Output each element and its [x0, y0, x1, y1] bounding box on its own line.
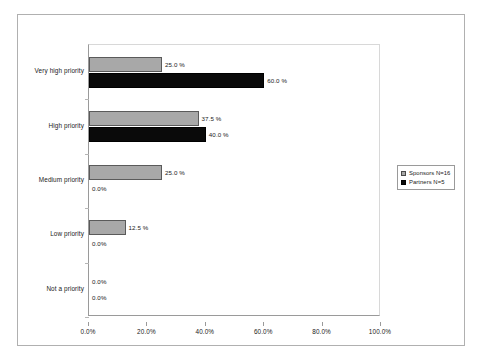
bar-value-label: 0.0%	[92, 181, 107, 196]
bar	[89, 220, 126, 235]
category-label: Medium priority	[39, 176, 84, 183]
x-axis-tick-label: 60.0%	[254, 328, 273, 335]
legend-label-sponsors: Sponsors N=16	[409, 170, 450, 176]
bar-value-label: 25.0 %	[165, 165, 185, 180]
x-axis-tick-label: 0.0%	[81, 328, 96, 335]
bar-group: 37.5 %40.0 %	[89, 99, 379, 153]
bar-value-label: 37.5 %	[202, 111, 222, 126]
category-label: Low priority	[50, 230, 84, 237]
bar-value-label: 60.0 %	[267, 73, 287, 88]
bar	[89, 73, 264, 88]
x-axis-tick	[263, 322, 264, 326]
bar-value-label: 12.5 %	[129, 220, 149, 235]
plot-area: 25.0 %60.0 %37.5 %40.0 %25.0 %0.0%12.5 %…	[88, 44, 380, 316]
chart-legend: Sponsors N=16 Partners N=5	[397, 165, 455, 190]
x-axis-tick-label: 100.0%	[369, 328, 391, 335]
x-axis-tick-label: 40.0%	[195, 328, 214, 335]
category-axis-labels: Very high priorityHigh priorityMedium pr…	[0, 44, 84, 316]
legend-swatch-partners	[401, 180, 406, 185]
x-axis-tick-label: 20.0%	[137, 328, 156, 335]
x-axis-tick	[88, 322, 89, 326]
category-label: High priority	[49, 122, 84, 129]
x-axis-tick	[380, 322, 381, 326]
x-axis-tick	[322, 322, 323, 326]
y-axis-tick	[85, 317, 89, 318]
category-label: Not a priority	[46, 285, 84, 292]
bar-group: 25.0 %0.0%	[89, 154, 379, 208]
legend-item: Partners N=5	[401, 178, 450, 186]
x-axis-tick	[146, 322, 147, 326]
bar	[89, 165, 162, 180]
bar-group: 12.5 %0.0%	[89, 208, 379, 262]
bar	[89, 111, 199, 126]
bar-value-label: 25.0 %	[165, 57, 185, 72]
bar-value-label: 0.0%	[92, 274, 107, 289]
legend-swatch-sponsors	[401, 171, 406, 176]
bar-group: 0.0%0.0%	[89, 263, 379, 317]
bar	[89, 127, 206, 142]
x-axis-labels: 0.0%20.0%40.0%60.0%80.0%100.0%	[88, 322, 380, 336]
x-axis-tick	[205, 322, 206, 326]
chart-figure: Very high priorityHigh priorityMedium pr…	[0, 0, 483, 363]
bar-value-label: 40.0 %	[209, 127, 229, 142]
bar-value-label: 0.0%	[92, 290, 107, 305]
bar-group: 25.0 %60.0 %	[89, 45, 379, 99]
legend-item: Sponsors N=16	[401, 169, 450, 177]
category-label: Very high priority	[35, 67, 84, 74]
bar-value-label: 0.0%	[92, 236, 107, 251]
bar	[89, 57, 162, 72]
x-axis-tick-label: 80.0%	[312, 328, 331, 335]
legend-label-partners: Partners N=5	[409, 179, 444, 185]
